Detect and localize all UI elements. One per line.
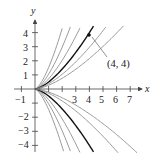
x-tick-label: 4 — [86, 94, 91, 105]
x-tick-label: −1 — [15, 94, 26, 105]
y-tick-label: 1 — [23, 70, 28, 81]
x-tick-label: 5 — [99, 94, 104, 105]
x-tick-label: 3 — [72, 94, 77, 105]
y-tick-label: −4 — [18, 139, 29, 150]
chart: x y −1 3 4 5 6 7 4 3 2 1 −2 −3 −4 (4, 4) — [0, 0, 163, 156]
x-axis-label: x — [144, 83, 150, 94]
y-tick-label: −2 — [18, 111, 29, 122]
curve — [35, 27, 106, 89]
y-axis-label: y — [30, 5, 36, 16]
curve — [35, 28, 62, 89]
y-tick-label: 2 — [23, 56, 28, 67]
x-tick-label: 7 — [127, 94, 132, 105]
y-tick-label: 4 — [23, 28, 28, 39]
x-tick-label: 6 — [113, 94, 118, 105]
y-tick-label: 3 — [23, 42, 28, 53]
curve — [35, 89, 64, 151]
point-label: (4, 4) — [107, 58, 130, 70]
point-marker — [87, 33, 91, 37]
y-tick-label: −3 — [18, 125, 29, 136]
